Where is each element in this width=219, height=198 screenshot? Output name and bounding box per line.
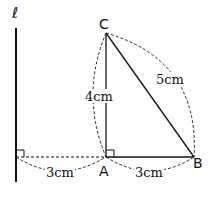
label-line-l: ℓ xyxy=(11,4,18,22)
diagram-canvas: ℓ C A B 4cm 5cm 3cm 3cm xyxy=(0,0,219,198)
label-point-A: A xyxy=(99,163,109,179)
label-point-B: B xyxy=(193,155,203,171)
label-point-C: C xyxy=(99,16,109,32)
label-length-AC: 4cm xyxy=(85,89,113,104)
label-length-line-A: 3cm xyxy=(46,165,74,180)
segment-BC xyxy=(106,33,194,157)
label-length-AB: 3cm xyxy=(135,165,163,180)
label-length-BC: 5cm xyxy=(156,72,184,87)
right-angle-marker-line xyxy=(16,150,24,157)
right-angle-marker-A xyxy=(106,150,114,157)
geometry-diagram: ℓ C A B 4cm 5cm 3cm 3cm xyxy=(0,0,219,198)
